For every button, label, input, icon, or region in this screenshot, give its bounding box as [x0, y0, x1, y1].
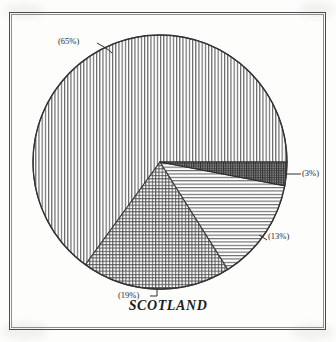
slice-label-3: (3%) — [302, 168, 319, 178]
chart-title: SCOTLAND — [0, 298, 336, 314]
pie-chart — [0, 0, 336, 342]
pie-slices — [33, 35, 287, 289]
leader-line-19 — [150, 289, 157, 296]
slice-label-13: (13%) — [268, 231, 289, 241]
slice-label-65: (65%) — [58, 36, 79, 46]
